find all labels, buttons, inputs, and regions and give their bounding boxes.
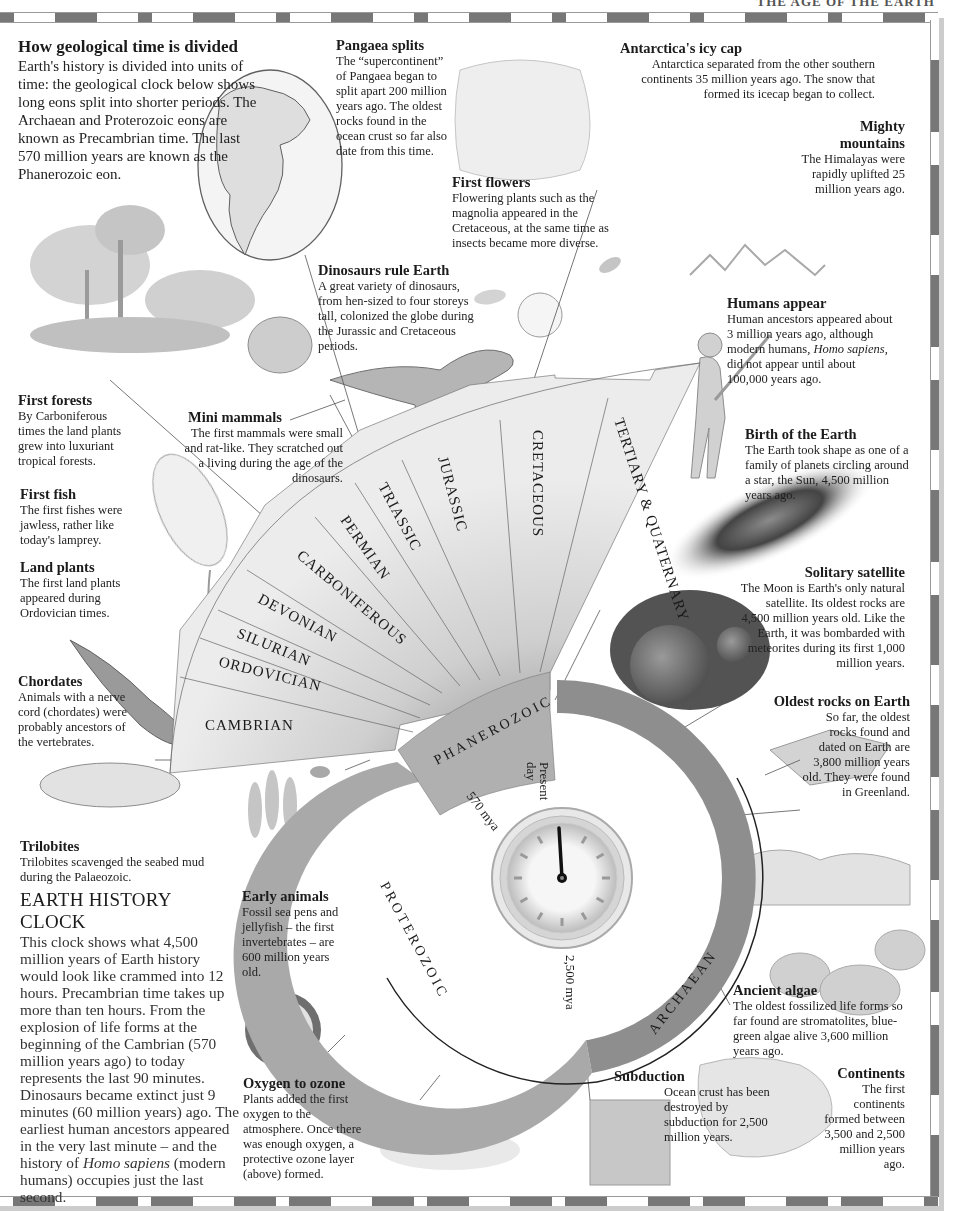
callout-body: The first continents formed between 3,50… [820,1082,905,1172]
callout-body: Ocean crust has been destroyed by subduc… [614,1085,774,1145]
callout-title: Antarctica's icy cap [620,40,850,57]
callout-title: Subduction [614,1068,784,1085]
present-day-marker: day [524,762,539,781]
callout-land-plants: Land plants The first land plants appear… [20,559,140,621]
period-label-cambrian: CAMBRIAN [205,717,294,733]
callout-forests: First forests By Carboniferous times the… [18,392,128,469]
section-title: EARTH HISTORY CLOCK [20,889,240,933]
trilobite-illustration [40,763,180,807]
callout-body: Trilobites scavenged the seabed mud duri… [20,855,230,885]
callout-mountains: Mighty mountains The Himalayas were rapi… [800,118,905,197]
callout-title: First fish [20,486,140,503]
callout-body: Antarctica separated from the other sout… [620,57,875,102]
moon-illustration [630,625,710,705]
callout-subduction: Subduction Ocean crust has been destroye… [614,1068,784,1145]
callout-title: Birth of the Earth [745,426,910,443]
callout-body: Fossil sea pens and jellyfish – the firs… [242,905,347,980]
callout-pangaea: Pangaea splits The “supercontinent” of P… [336,37,456,159]
callout-title: First forests [18,392,128,409]
callout-title: Oxygen to ozone [243,1075,373,1092]
callout-body: Animals with a nerve cord (chordates) we… [18,690,138,750]
section-body: This clock shows what 4,500 million year… [20,933,240,1205]
marker-2500-mya: 2,500 mya [563,955,578,1010]
callout-title: Solitary satellite [735,564,905,581]
callout-body: The first mammals were small and rat-lik… [183,426,343,486]
callout-title: First flowers [452,174,627,191]
callout-satellite: Solitary satellite The Moon is Earth's o… [735,564,905,671]
clock-face [492,808,632,948]
callout-mammals: Mini mammals The first mammals were smal… [183,409,343,486]
intro-section: How geological time is divided Earth's h… [18,37,318,183]
callout-body: The first fishes were jawless, rather li… [20,503,140,548]
callout-birth: Birth of the Earth The Earth took shape … [745,426,910,503]
callout-body: A great variety of dinosaurs, from hen-s… [318,279,478,354]
callout-algae: Ancient algae The oldest fossilized life… [733,982,911,1059]
callout-oxygen: Oxygen to ozone Plants added the first o… [243,1075,373,1182]
callout-dinosaurs: Dinosaurs rule Earth A great variety of … [318,262,478,354]
intro-title: How geological time is divided [18,37,318,57]
callout-early-animals: Early animals Fossil sea pens and jellyf… [242,888,347,980]
period-label-cretaceous: CRETACEOUS [530,430,546,537]
callout-title: Pangaea splits [336,37,456,54]
callout-oldest-rocks: Oldest rocks on Earth So far, the oldest… [760,693,910,800]
intro-body: Earth's history is divided into units of… [18,57,263,183]
callout-title: Trilobites [20,838,230,855]
callout-body: By Carboniferous times the land plants g… [18,409,128,469]
earth-history-clock-section: EARTH HISTORY CLOCK This clock shows wha… [20,889,240,1205]
callout-title: Ancient algae [733,982,911,999]
callout-body: Plants added the first oxygen to the atm… [243,1092,373,1182]
callout-body: The Himalayas were rapidly uplifted 25 m… [800,152,905,197]
callout-title: Dinosaurs rule Earth [318,262,478,279]
callout-title: Early animals [242,888,347,905]
callout-body: The first land plants appeared during Or… [20,576,140,621]
callout-chordates: Chordates Animals with a nerve cord (cho… [18,673,138,750]
callout-body: The “supercontinent” of Pangaea began to… [336,54,456,159]
callout-humans: Humans appear Human ancestors appeared a… [727,295,897,387]
callout-body: The oldest fossilized life forms so far … [733,999,911,1059]
mammal-illustration [248,317,312,373]
callout-title: Humans appear [727,295,897,312]
callout-body: Flowering plants such as the magnolia ap… [452,191,627,251]
magnolia-illustration [473,254,623,337]
callout-title: Continents [820,1065,905,1082]
callout-fish: First fish The first fishes were jawless… [20,486,140,548]
callout-antarctica: Antarctica's icy cap Antarctica separate… [620,40,850,102]
callout-body: The Earth took shape as one of a family … [745,443,910,503]
callout-title: Oldest rocks on Earth [760,693,910,710]
callout-flowers: First flowers Flowering plants such as t… [452,174,627,251]
callout-continents: Continents The first continents formed b… [820,1065,905,1172]
callout-body: Human ancestors appeared about 3 million… [727,312,897,387]
callout-title: Land plants [20,559,140,576]
callout-title: Mini mammals [183,409,343,426]
callout-title: Mighty mountains [800,118,905,152]
callout-title: Chordates [18,673,138,690]
callout-body: The Moon is Earth's only natural satelli… [735,581,905,671]
callout-trilobites: Trilobites Trilobites scavenged the seab… [20,838,230,885]
callout-body: So far, the oldest rocks found and dated… [760,710,910,800]
